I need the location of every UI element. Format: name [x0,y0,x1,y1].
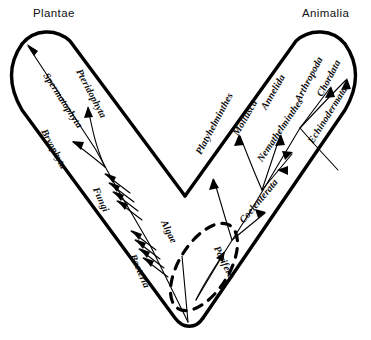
platyhelminthes-arrowhead [209,178,219,190]
phylogenetic-tree-svg [0,0,371,340]
platyhelminthes-branch [214,180,232,240]
kingdom-label-animalia: Animalia [302,7,349,19]
figure-canvas: Plantae Animalia SpermatophytaPteridophy… [0,0,371,340]
spermatophyta-arrowhead [27,44,38,56]
echinodermata-arrowhead [277,166,288,175]
pteridophyta-arrowhead [84,106,93,118]
plantae-lobe-outline [12,44,204,326]
kingdom-label-plantae: Plantae [33,7,75,19]
